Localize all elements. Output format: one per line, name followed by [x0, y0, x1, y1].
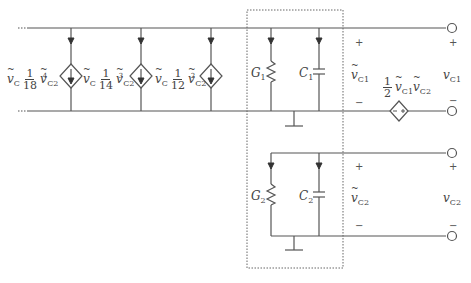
- fraction-den: 14: [99, 80, 113, 91]
- source-1-label: vC118v4C2: [7, 68, 58, 91]
- vc2-tilde-label: vC2: [351, 192, 369, 207]
- label-sub: C1: [358, 75, 369, 84]
- fraction-den: 12: [171, 80, 185, 91]
- voltage-source-label: 12vC1vC2: [380, 76, 431, 99]
- label-sub: C2: [358, 198, 369, 207]
- current-arrow-icon: [208, 38, 214, 44]
- label-sub: 2: [308, 196, 313, 205]
- vc2-tilde-minus: −: [355, 221, 363, 231]
- port-vc1-minus: −: [449, 96, 457, 106]
- label-sub: C2: [195, 79, 206, 88]
- label-text: v: [7, 73, 14, 85]
- fraction-den: 2: [384, 88, 391, 99]
- label-text: v: [443, 191, 450, 205]
- label-sub: C1: [402, 87, 413, 96]
- label-sub: C2: [420, 87, 431, 96]
- g2-label: G2: [251, 190, 266, 205]
- current-arrow-icon: [316, 163, 322, 169]
- ground-1: [285, 111, 303, 126]
- c2-label: C2: [299, 190, 313, 205]
- linear-subsystem-box: [247, 10, 343, 268]
- terminal-vc2-plus: [448, 149, 457, 158]
- label-sub: 1: [261, 73, 266, 82]
- label-text: G: [251, 189, 261, 203]
- port-vc2-minus: −: [449, 221, 457, 231]
- label-sub: C2: [123, 79, 134, 88]
- port-vc1-plus: +: [449, 38, 457, 48]
- source-arrow-icon: [68, 78, 74, 84]
- label-text: C: [299, 66, 308, 80]
- label-text: v: [116, 73, 123, 85]
- terminal-vc1-plus: [448, 24, 457, 33]
- port-vc1-label: vC1: [443, 69, 461, 84]
- vc1-tilde-plus: +: [355, 38, 363, 48]
- port-vc2-plus: +: [449, 162, 457, 172]
- current-arrow-icon: [316, 38, 322, 44]
- current-arrow-icon: [68, 38, 74, 44]
- label-sub: C: [90, 79, 96, 88]
- terminal-vc2-minus: [448, 232, 457, 241]
- circuit-diagram: vC118v4C2 vC114v3C2 vC112v2C2 G1 C1 G2 C…: [0, 0, 471, 283]
- vc1-tilde-minus: −: [355, 98, 363, 108]
- label-sub: 2: [261, 196, 266, 205]
- label-text: v: [413, 81, 420, 93]
- vc2-tilde-plus: +: [355, 162, 363, 172]
- label-sub: C2: [47, 79, 58, 88]
- source-arrow-icon: [138, 78, 144, 84]
- label-sub: C: [162, 79, 168, 88]
- source-3-label: vC112v2C2: [155, 68, 206, 91]
- vc1-tilde-label: vC1: [351, 69, 369, 84]
- current-arrow-icon: [268, 38, 274, 44]
- fraction: 12: [383, 76, 392, 99]
- terminal-vc1-minus: [448, 107, 457, 116]
- fraction: 118: [23, 68, 37, 91]
- source-arrow-icon: [208, 78, 214, 84]
- fraction: 114: [99, 68, 113, 91]
- fraction: 112: [171, 68, 185, 91]
- circuit-schematic: [0, 0, 471, 283]
- ground-2: [285, 236, 303, 250]
- dependent-voltage-source: [390, 101, 408, 121]
- c1-label: C1: [299, 67, 313, 82]
- label-text: v: [40, 73, 47, 85]
- label-text: v: [351, 192, 358, 204]
- label-text: G: [251, 66, 261, 80]
- label-text: C: [299, 189, 308, 203]
- label-text: v: [443, 68, 450, 82]
- label-text: v: [351, 69, 358, 81]
- current-arrow-icon: [268, 163, 274, 169]
- label-text: v: [83, 73, 90, 85]
- fraction-den: 18: [23, 80, 37, 91]
- label-sub: C1: [450, 75, 461, 84]
- source-2-label: vC114v3C2: [83, 68, 134, 91]
- label-sub: C: [14, 79, 20, 88]
- label-text: v: [395, 81, 402, 93]
- label-sub: C2: [450, 198, 461, 207]
- label-sub: 1: [308, 73, 313, 82]
- current-arrow-icon: [138, 38, 144, 44]
- label-text: v: [155, 73, 162, 85]
- label-text: v: [188, 73, 195, 85]
- port-vc2-label: vC2: [443, 192, 461, 207]
- g1-label: G1: [251, 67, 266, 82]
